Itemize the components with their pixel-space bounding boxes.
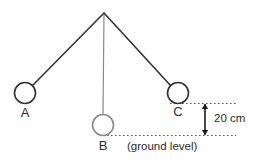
string-group xyxy=(33,13,171,115)
pendulum-figure: A B C 20 cm (ground level) xyxy=(0,0,259,165)
height-dimension-arrow xyxy=(202,104,208,135)
ball-b xyxy=(93,115,114,136)
string-to-a-line xyxy=(33,13,105,86)
string-to-b-line xyxy=(103,13,104,115)
ball-a xyxy=(15,83,36,104)
dimension-value-label: 20 cm xyxy=(214,112,245,124)
ball-label-b: B xyxy=(99,138,108,153)
dimension-arrowhead-top xyxy=(202,104,208,109)
ball-c xyxy=(168,83,189,104)
pendulum-diagram-canvas: A B C 20 cm (ground level) xyxy=(0,0,259,165)
dimension-arrowhead-bottom xyxy=(202,130,208,135)
ball-label-c: C xyxy=(173,104,182,119)
string-to-c-line xyxy=(104,13,171,86)
ball-label-a: A xyxy=(21,105,30,120)
ball-group xyxy=(15,83,189,136)
ground-level-caption: (ground level) xyxy=(127,140,197,152)
